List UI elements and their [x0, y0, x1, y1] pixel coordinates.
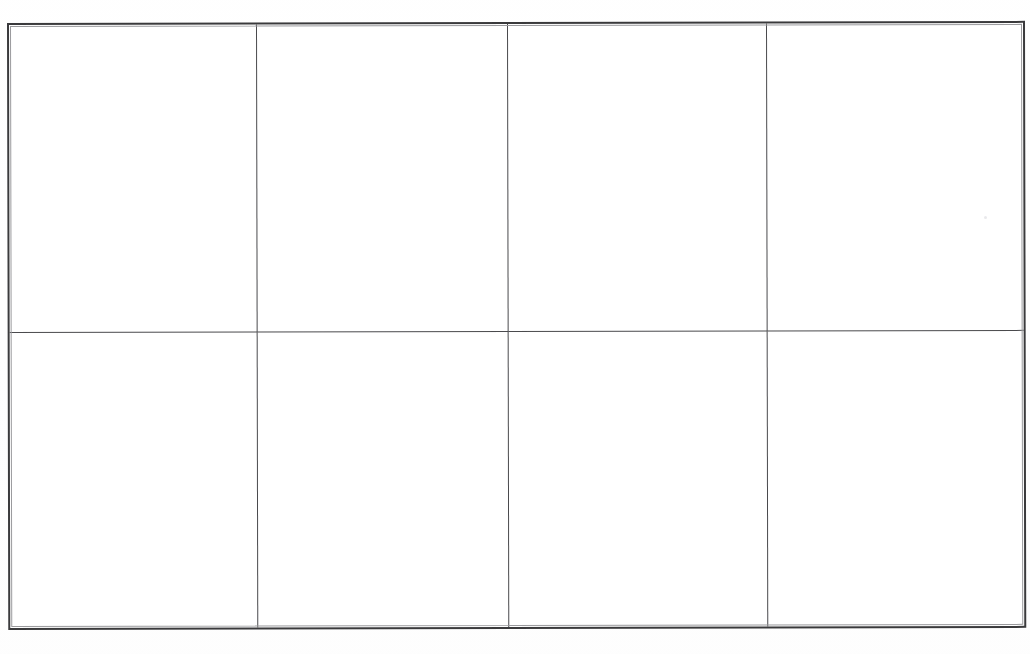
table-cell-r1c2[interactable]: [257, 24, 509, 333]
table-cell-r2c4[interactable]: [768, 331, 1025, 627]
table-cell-r1c4[interactable]: [767, 23, 1024, 332]
table-cell-r1c1[interactable]: [9, 24, 258, 333]
table-cell-r2c2[interactable]: [258, 332, 510, 628]
table-cell-r2c3[interactable]: [509, 331, 769, 627]
grid-table: [7, 21, 1026, 630]
table-cell-r2c1[interactable]: [10, 332, 259, 628]
table-cell-r1c3[interactable]: [508, 23, 768, 332]
scanned-page: [0, 0, 1030, 654]
grid-table-body: [9, 23, 1024, 628]
